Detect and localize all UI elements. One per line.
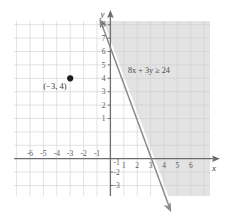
- y-tick-2: 2: [102, 101, 106, 110]
- y-tick-labels-negative: -1 -2 -3: [114, 158, 120, 191]
- coordinate-graph: 8 7 6 5 4 3 2 1 -1 -2 -3 -6 -5 -4 -3 -2 …: [0, 0, 228, 215]
- x-tick-5: 5: [176, 161, 180, 170]
- y-axis-label: y: [100, 9, 105, 19]
- y-tick-1: 1: [102, 114, 106, 123]
- y-tick-6: 6: [102, 47, 106, 56]
- point-label: (−3, 4): [43, 81, 66, 91]
- inequality-annotation: 8x + 3y ≥ 24: [128, 66, 170, 75]
- x-tick-2: 2: [135, 161, 139, 170]
- x-tick-labels-negative: -6 -5 -4 -3 -2 -1: [27, 149, 100, 158]
- x-axis-label: x: [211, 163, 216, 173]
- y-tick-labels-positive: 8 7 6 5 4 3 2 1: [102, 20, 106, 123]
- x-tick-6: 6: [189, 161, 193, 170]
- x-tick-neg-4: -4: [54, 149, 60, 158]
- y-tick-7: 7: [102, 34, 106, 43]
- x-tick-neg-3: -3: [67, 149, 73, 158]
- y-tick-neg-1: -1: [114, 158, 120, 167]
- plotted-point: [67, 75, 73, 81]
- y-tick-neg-2: -2: [114, 168, 120, 177]
- y-tick-8: 8: [102, 20, 106, 29]
- x-tick-neg-1: -1: [94, 149, 100, 158]
- x-tick-neg-5: -5: [40, 149, 46, 158]
- y-tick-3: 3: [102, 87, 106, 96]
- y-tick-5: 5: [102, 61, 106, 70]
- x-tick-neg-6: -6: [27, 149, 33, 158]
- graph-svg: 8 7 6 5 4 3 2 1 -1 -2 -3 -6 -5 -4 -3 -2 …: [0, 0, 228, 215]
- x-tick-4: 4: [162, 161, 166, 170]
- x-tick-neg-2: -2: [80, 149, 86, 158]
- x-tick-1: 1: [122, 161, 126, 170]
- y-tick-neg-3: -3: [114, 181, 120, 190]
- y-tick-4: 4: [102, 74, 106, 83]
- x-tick-3: 3: [149, 161, 153, 170]
